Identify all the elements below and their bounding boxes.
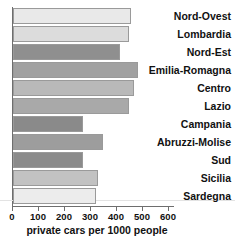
bar-abruzzi-molise[interactable] xyxy=(13,134,103,150)
x-axis-line xyxy=(12,206,174,207)
bar-row: Centro xyxy=(0,80,235,98)
x-tick-label: 200 xyxy=(56,211,72,222)
bar-label-lazio: Lazio xyxy=(204,98,231,114)
bar-emilia-romagna[interactable] xyxy=(13,62,138,78)
bar-label-centro: Centro xyxy=(197,80,231,96)
bar-lazio[interactable] xyxy=(13,98,129,114)
bar-campania[interactable] xyxy=(13,116,83,132)
x-tick-label: 500 xyxy=(134,211,150,222)
bar-row: Nord-Ovest xyxy=(0,8,235,26)
bar-label-campania: Campania xyxy=(181,116,231,132)
bar-label-nord-est: Nord-Est xyxy=(187,44,231,60)
bar-row: Nord-Est xyxy=(0,44,235,62)
bar-chart: Nord-OvestLombardiaNord-EstEmilia-Romagn… xyxy=(0,0,235,247)
bar-label-sicilia: Sicilia xyxy=(201,170,231,186)
x-tick-label: 100 xyxy=(30,211,46,222)
truncated-chart-title xyxy=(0,0,235,2)
bar-label-lombardia: Lombardia xyxy=(177,26,231,42)
x-tick-label: 0 xyxy=(9,211,14,222)
x-axis-title: private cars per 1000 people xyxy=(12,224,182,236)
bar-label-emilia-romagna: Emilia-Romagna xyxy=(149,62,231,78)
bar-row: Emilia-Romagna xyxy=(0,62,235,80)
bar-nord-est[interactable] xyxy=(13,44,120,60)
x-tick-label: 600 xyxy=(160,211,176,222)
bar-label-nord-ovest: Nord-Ovest xyxy=(174,8,231,24)
bar-centro[interactable] xyxy=(13,80,134,96)
plot-area: Nord-OvestLombardiaNord-EstEmilia-Romagn… xyxy=(0,7,235,207)
x-tick-label: 300 xyxy=(82,211,98,222)
bar-row: Campania xyxy=(0,116,235,134)
bar-sicilia[interactable] xyxy=(13,170,98,186)
bar-label-abruzzi-molise: Abruzzi-Molise xyxy=(157,134,231,150)
bar-nord-ovest[interactable] xyxy=(13,8,131,24)
bar-label-sud: Sud xyxy=(211,152,231,168)
bar-sud[interactable] xyxy=(13,152,83,168)
bar-row: Abruzzi-Molise xyxy=(0,134,235,152)
bar-lombardia[interactable] xyxy=(13,26,129,42)
bar-row: Sud xyxy=(0,152,235,170)
bar-row: Lazio xyxy=(0,98,235,116)
x-axis: 0100200300400500600 private cars per 100… xyxy=(0,206,235,247)
bar-label-sardegna: Sardegna xyxy=(183,188,231,204)
bar-row: Sicilia xyxy=(0,170,235,188)
bar-row: Lombardia xyxy=(0,26,235,44)
bar-sardegna[interactable] xyxy=(13,188,96,204)
x-tick-label: 400 xyxy=(108,211,124,222)
bar-row: Sardegna xyxy=(0,188,235,206)
